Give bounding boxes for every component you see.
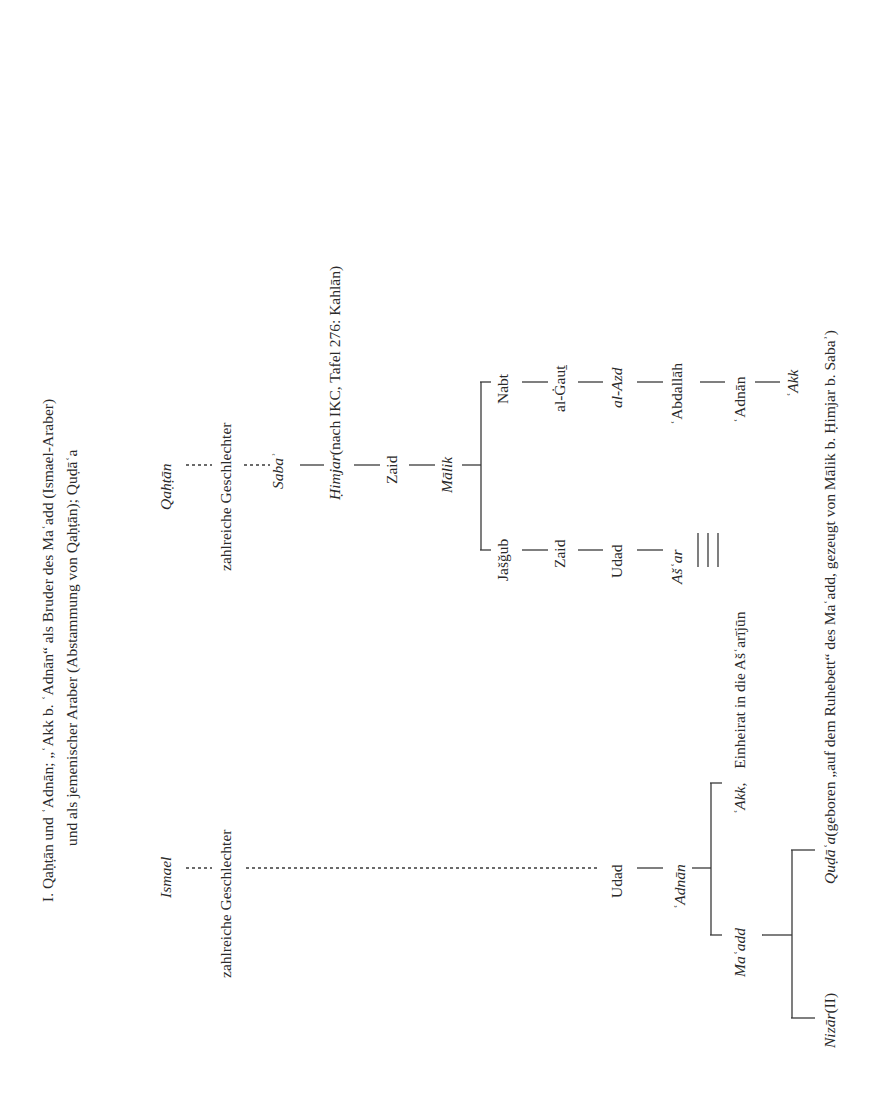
node-nizar-ref: (II) [821, 993, 838, 1014]
connector-lines [0, 0, 889, 1106]
node-adnan-yemeni: ʿAdnān [732, 377, 748, 424]
node-adnan: ʿAdnān [672, 864, 688, 910]
node-ismael-generations: zahlreiche Geschlechter [218, 830, 234, 978]
title-line-1: I. Qaḥṭān und ʿAdnān; „ʿAkk b. ʿAdnān“ a… [40, 399, 56, 902]
node-asar: Ašʿar [669, 550, 685, 584]
node-qudaa-note: (geboren „auf dem Ruhebett“ des Maʿadd, … [821, 330, 838, 837]
node-al-gaut: al-Ġauṯ [552, 366, 568, 412]
node-akk-yemeni: ʿAkk [785, 370, 801, 398]
node-akk-note: Einheirat in die Ašʿarījūn [731, 612, 748, 769]
node-nizar: Nizār(II) [822, 993, 838, 1048]
genealogy-diagram: I. Qaḥṭān und ʿAdnān; „ʿAkk b. ʿAdnān“ a… [0, 0, 889, 1106]
node-zaid-2: Zaid [552, 540, 568, 568]
node-saba: Sabaʾ [270, 453, 286, 489]
node-himjar-name: Ḥimjar [326, 455, 343, 500]
node-qudaa-name: Quḍāʿa [821, 837, 838, 884]
node-udad: Udad [609, 864, 625, 898]
node-jasgub: Jašǧub [495, 539, 511, 581]
node-ismael: Ismael [158, 857, 174, 898]
node-akk: ʿAkk,Einheirat in die Ašʿarījūn [732, 612, 748, 815]
node-maadd: Maʿadd [732, 928, 748, 977]
node-nabt: Nabt [495, 374, 511, 404]
node-zaid: Zaid [384, 456, 400, 484]
node-akk-name: ʿAkk, [731, 783, 748, 815]
node-qudaa: Quḍāʿa(geboren „auf dem Ruhebett“ des Ma… [822, 330, 838, 884]
node-al-azd: al-Azd [609, 368, 625, 408]
node-qahtan-generations: zahlreiche Geschlechter [218, 423, 234, 571]
node-himjar: Ḥimjar(nach IKC, Tafel 276: Kahlān) [327, 266, 343, 500]
node-udad-yemeni: Udad [609, 544, 625, 578]
node-qahtan: Qaḥṭān [158, 464, 174, 511]
node-himjar-note: (nach IKC, Tafel 276: Kahlān) [326, 266, 343, 455]
node-nizar-name: Nizār [821, 1014, 838, 1048]
node-malik: Mālik [439, 457, 455, 493]
title-line-2: und als jemenischer Araber (Abstammung v… [64, 450, 80, 846]
node-abdallah: ʿAbdallāh [669, 363, 685, 425]
